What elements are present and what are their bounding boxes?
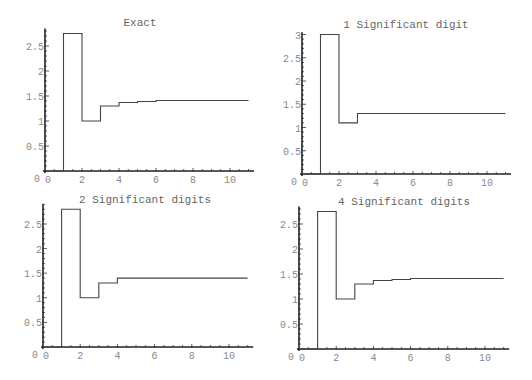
y-tick-label: 2: [292, 245, 298, 256]
y-tick-label: 1.5: [24, 269, 42, 280]
x-tick-label: 6: [410, 178, 416, 189]
y-tick-label: 1.5: [283, 100, 301, 111]
x-tick-label: 2: [336, 178, 342, 189]
chart-title: 4 Significant digits: [338, 196, 470, 208]
origin-label: 0: [291, 177, 297, 188]
x-tick-label: 4: [116, 175, 122, 186]
step-series: [45, 34, 249, 172]
y-tick-label: 1: [292, 295, 298, 306]
y-tick-label: 3: [295, 31, 301, 42]
x-tick-label: 2: [77, 351, 83, 362]
y-tick-label: 1.5: [26, 92, 44, 103]
x-tick-label: 4: [373, 178, 379, 189]
y-tick-label: 2.5: [26, 42, 44, 53]
x-tick-label: 4: [114, 351, 120, 362]
x-tick-label: 4: [370, 353, 376, 364]
x-tick-label: 10: [223, 351, 235, 362]
chart-title: 2 Significant digits: [79, 194, 211, 206]
x-tick-label: 10: [481, 178, 493, 189]
x-tick-label: 6: [153, 175, 159, 186]
y-tick-label: 2: [36, 245, 42, 256]
chart-exact: Exact024681000.511.522.5: [0, 0, 266, 190]
chart-title: 1 Significant digit: [343, 19, 468, 31]
x-tick-label: 8: [447, 178, 453, 189]
y-tick-label: 0.5: [280, 320, 298, 331]
x-tick-label: 0: [43, 351, 49, 362]
chart-svg: 1 Significant digit024681000.511.522.53: [266, 0, 532, 190]
origin-label: 0: [34, 174, 40, 185]
y-tick-label: 2.5: [280, 220, 298, 231]
y-tick-label: 2: [38, 67, 44, 78]
y-tick-label: 2.5: [283, 54, 301, 65]
chart-4-significant-digits: 4 Significant digits024681000.511.522.5: [266, 190, 532, 380]
chart-1-significant-digit: 1 Significant digit024681000.511.522.53: [266, 0, 532, 190]
x-tick-label: 10: [224, 175, 236, 186]
chart-svg: 2 Significant digits024681000.511.522.5: [0, 190, 266, 380]
x-tick-label: 8: [445, 353, 451, 364]
x-tick-label: 6: [152, 351, 158, 362]
y-tick-label: 1: [38, 117, 44, 128]
x-tick-label: 2: [79, 175, 85, 186]
x-tick-label: 2: [333, 353, 339, 364]
x-tick-label: 10: [479, 353, 491, 364]
chart-svg: Exact024681000.511.522.5: [0, 0, 266, 190]
step-series: [43, 209, 248, 347]
y-tick-label: 1: [36, 294, 42, 305]
y-tick-label: 1: [295, 124, 301, 135]
y-tick-label: 1.5: [280, 270, 298, 281]
x-tick-label: 0: [302, 178, 308, 189]
origin-label: 0: [32, 350, 38, 361]
chart-2-significant-digits: 2 Significant digits024681000.511.522.5: [0, 190, 266, 380]
x-tick-label: 0: [299, 353, 305, 364]
step-series: [302, 35, 506, 175]
y-tick-label: 2: [295, 77, 301, 88]
step-series: [299, 212, 504, 350]
y-tick-label: 0.5: [283, 147, 301, 158]
x-tick-label: 8: [189, 351, 195, 362]
origin-label: 0: [288, 352, 294, 363]
x-tick-label: 8: [190, 175, 196, 186]
x-tick-label: 6: [408, 353, 414, 364]
chart-svg: 4 Significant digits024681000.511.522.5: [266, 190, 532, 380]
y-tick-label: 2.5: [24, 220, 42, 231]
chart-title: Exact: [123, 17, 156, 29]
y-tick-label: 0.5: [26, 142, 44, 153]
x-tick-label: 0: [45, 175, 51, 186]
y-tick-label: 0.5: [24, 318, 42, 329]
